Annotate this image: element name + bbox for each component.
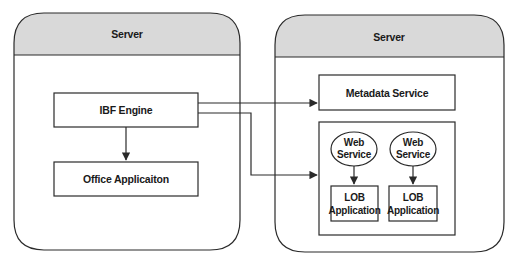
- lob-application-2-line2: Application: [387, 205, 439, 216]
- web-service-1-line2: Service: [337, 149, 372, 160]
- ibf-engine-label: IBF Engine: [100, 104, 153, 116]
- left-server-title: Server: [111, 28, 143, 40]
- office-application-label: Office Applicaiton: [83, 173, 169, 185]
- right-server: Server Metadata Service Web Service LOB …: [275, 15, 504, 252]
- web-service-2-line2: Service: [396, 149, 431, 160]
- right-server-title: Server: [373, 31, 405, 43]
- lob-application-1-line2: Application: [328, 205, 380, 216]
- lob-application-1-line1: LOB: [344, 192, 365, 203]
- lob-application-2-line1: LOB: [403, 192, 424, 203]
- arrow-ibf-to-lob-container: [198, 113, 317, 175]
- web-service-1-line1: Web: [344, 137, 364, 148]
- metadata-service-label: Metadata Service: [346, 87, 429, 99]
- architecture-diagram: Server IBF Engine Office Applicaiton Ser…: [0, 0, 517, 266]
- left-server: Server IBF Engine Office Applicaiton: [14, 13, 240, 250]
- web-service-2-line1: Web: [403, 137, 423, 148]
